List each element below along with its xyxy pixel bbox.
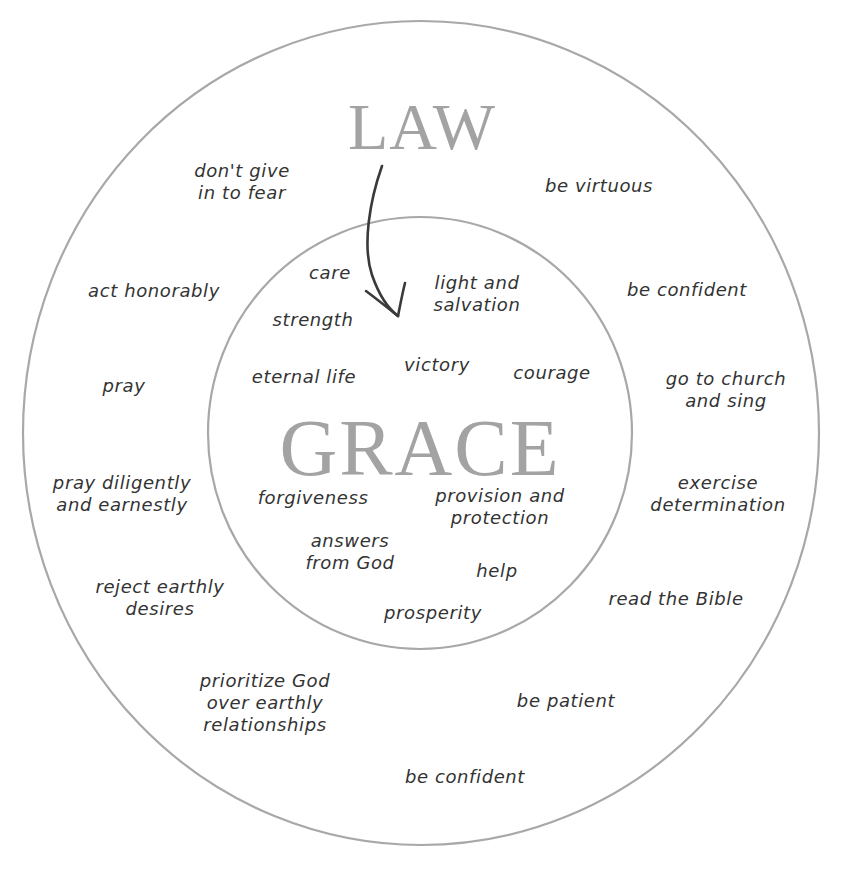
law-item-be-virtuous: be virtuous (545, 175, 653, 197)
law-item-exercise-determination: exercise determination (650, 472, 785, 516)
grace-item-care: care (309, 262, 351, 284)
law-item-reject-earthly: reject earthly desires (95, 576, 224, 620)
grace-item-eternal-life: eternal life (252, 366, 356, 388)
grace-item-provision-protection: provision and protection (435, 485, 565, 529)
grace-item-strength: strength (272, 309, 353, 331)
law-item-pray-diligently: pray diligently and earnestly (53, 472, 191, 516)
law-item-go-to-church: go to church and sing (666, 368, 787, 412)
law-item-be-confident-2: be confident (405, 766, 525, 788)
law-item-be-confident-1: be confident (627, 279, 747, 301)
grace-heading: GRACE (279, 408, 560, 488)
grace-item-courage: courage (513, 362, 590, 384)
law-item-read-bible: read the Bible (608, 588, 743, 610)
law-item-dont-give-in: don't give in to fear (194, 160, 290, 204)
law-item-be-patient: be patient (517, 690, 615, 712)
grace-item-prosperity: prosperity (384, 602, 482, 624)
curved-down-arrow-icon (366, 166, 405, 316)
grace-item-light-salvation: light and salvation (434, 272, 521, 316)
law-item-prioritize-god: prioritize God over earthly relationship… (200, 670, 330, 736)
law-heading: LAW (348, 94, 496, 160)
law-item-act-honorably: act honorably (88, 280, 220, 302)
grace-item-victory: victory (404, 354, 470, 376)
law-item-pray: pray (103, 375, 146, 397)
grace-item-forgiveness: forgiveness (258, 487, 369, 509)
grace-item-help: help (476, 560, 517, 582)
grace-item-answers-from-god: answers from God (305, 530, 394, 574)
